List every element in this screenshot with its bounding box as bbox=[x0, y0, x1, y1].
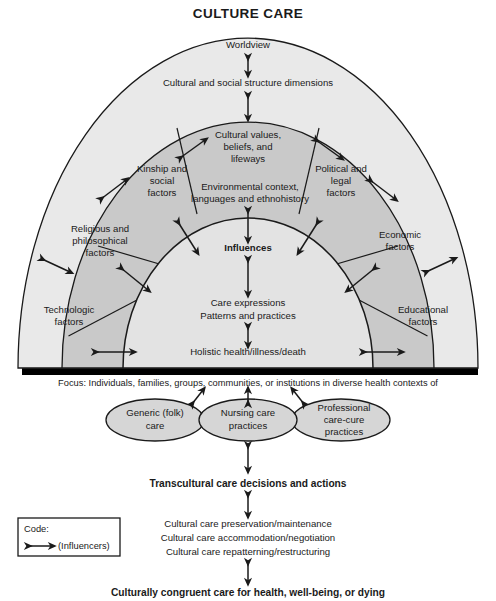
svg-text:Kinship and: Kinship and bbox=[137, 163, 187, 174]
svg-text:Generic (folk): Generic (folk) bbox=[126, 407, 184, 418]
label-worldview: Worldview bbox=[226, 39, 270, 50]
code-box-title: Code: bbox=[24, 524, 49, 534]
care-action-item: Cultural care preservation/maintenance bbox=[164, 518, 331, 529]
svg-text:legal: legal bbox=[331, 175, 351, 186]
sunrise-model-diagram: CULTURE CARE Worldview Cultural and soci… bbox=[0, 0, 496, 601]
code-legend-box: Code: (Influencers) bbox=[18, 518, 120, 556]
transcultural-decisions-heading: Transcultural care decisions and actions bbox=[149, 478, 346, 489]
focus-statement: Focus: Individuals, families, groups, co… bbox=[58, 378, 438, 388]
svg-text:factors: factors bbox=[409, 316, 438, 327]
svg-text:beliefs, and: beliefs, and bbox=[223, 141, 272, 152]
svg-text:practices: practices bbox=[229, 420, 268, 431]
svg-text:Educational: Educational bbox=[398, 304, 448, 315]
label-influences: Influences bbox=[224, 242, 271, 253]
svg-text:Political and: Political and bbox=[315, 163, 367, 174]
code-box-legend: (Influencers) bbox=[58, 541, 110, 551]
practice-ellipse-generic-folk-care[interactable]: Generic (folk) care bbox=[106, 399, 204, 441]
svg-text:Environmental context,: Environmental context, bbox=[201, 181, 299, 192]
svg-text:philosophical: philosophical bbox=[72, 235, 127, 246]
svg-text:lifeways: lifeways bbox=[231, 153, 265, 164]
care-action-item: Cultural care repatterning/restructuring bbox=[166, 546, 330, 557]
dome-base-line bbox=[22, 368, 478, 369]
svg-text:factors: factors bbox=[327, 187, 356, 198]
care-action-item: Cultural care accommodation/negotiation bbox=[161, 532, 335, 543]
svg-text:factors: factors bbox=[55, 316, 84, 327]
svg-text:factors: factors bbox=[386, 241, 415, 252]
diagram-canvas: CULTURE CARE Worldview Cultural and soci… bbox=[0, 0, 496, 601]
svg-text:Nursing care: Nursing care bbox=[221, 407, 275, 418]
label-holistic-health-illness-death: Holistic health/illness/death bbox=[190, 346, 306, 357]
label-cultural-social-structure-dimensions: Cultural and social structure dimensions bbox=[163, 77, 333, 88]
practice-ellipse-nursing-care-practices[interactable]: Nursing care practices bbox=[199, 399, 297, 441]
outcome-statement: Culturally congruent care for health, we… bbox=[111, 587, 385, 598]
care-actions-list: Cultural care preservation/maintenance C… bbox=[161, 518, 335, 557]
svg-text:factors: factors bbox=[86, 247, 115, 258]
svg-text:Religious and: Religious and bbox=[71, 223, 129, 234]
svg-text:social: social bbox=[150, 175, 175, 186]
svg-text:practices: practices bbox=[325, 426, 364, 437]
svg-text:Cultural values,: Cultural values, bbox=[215, 129, 281, 140]
svg-text:factors: factors bbox=[148, 187, 177, 198]
label-patterns-and-practices: Patterns and practices bbox=[200, 310, 296, 321]
svg-text:Economic: Economic bbox=[379, 229, 421, 240]
svg-text:languages and ethnohistory: languages and ethnohistory bbox=[191, 193, 309, 204]
practice-ellipse-professional-care-cure-practices[interactable]: Professional care-cure practices bbox=[292, 399, 390, 441]
label-care-expressions: Care expressions bbox=[211, 297, 286, 308]
svg-text:Professional: Professional bbox=[318, 402, 371, 413]
svg-text:Technologic: Technologic bbox=[44, 304, 95, 315]
page-title: CULTURE CARE bbox=[193, 6, 303, 21]
sector-label-environmental-context: Environmental context, languages and eth… bbox=[191, 181, 309, 204]
focus-to-practice-arrows bbox=[192, 390, 304, 404]
dome-base-bar bbox=[22, 368, 478, 375]
svg-text:care-cure: care-cure bbox=[324, 414, 365, 425]
svg-text:care: care bbox=[146, 420, 165, 431]
